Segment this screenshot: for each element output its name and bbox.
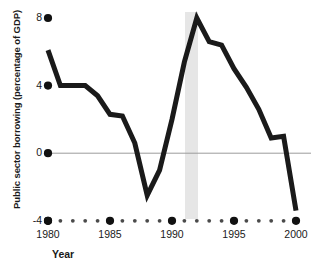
- x-tick-dot-1994: [220, 219, 224, 223]
- x-tick-dot-1982: [71, 219, 75, 223]
- y-tick-dot-4: [44, 82, 52, 90]
- x-axis-title: Year: [52, 248, 74, 260]
- y-tick-dot-0: [44, 149, 52, 157]
- chart-container: Public sector borrowing (percentage of G…: [0, 0, 319, 272]
- x-tick-dot-1990: [168, 217, 176, 225]
- x-tick-dot-1985: [106, 217, 114, 225]
- data-series-line: [48, 18, 296, 211]
- x-tick-dot-1988: [145, 219, 149, 223]
- x-tick-dot-1996: [245, 219, 249, 223]
- x-tick-dot-1986: [121, 219, 125, 223]
- y-axis-tick-dots: [44, 14, 52, 225]
- x-tick-dot-1991: [183, 219, 187, 223]
- x-tick-dot-2000: [292, 217, 300, 225]
- x-tick-dot-1984: [96, 219, 100, 223]
- x-tick-dot-1993: [207, 219, 211, 223]
- x-tick-dot-1992: [195, 219, 199, 223]
- x-tick-dot-1997: [257, 219, 261, 223]
- x-tick-dot-1980: [44, 217, 52, 225]
- x-tick-dot-1987: [133, 219, 137, 223]
- x-tick-label-2000: 2000: [276, 228, 316, 240]
- y-tick-label-8: 8: [26, 11, 42, 23]
- y-tick-label-4: 4: [26, 79, 42, 91]
- x-tick-dot-1995: [230, 217, 238, 225]
- x-axis-tick-dots: [44, 217, 300, 225]
- x-tick-dot-1998: [269, 219, 273, 223]
- y-tick-label-0: 0: [26, 146, 42, 158]
- x-tick-dot-1981: [59, 219, 63, 223]
- x-tick-dot-1999: [282, 219, 286, 223]
- plot-area: 8 4 0 -4 1980 1985 1990 1995 2000 Year: [0, 0, 319, 272]
- y-tick-dot-8: [44, 14, 52, 22]
- x-tick-label-1985: 1985: [90, 228, 130, 240]
- x-tick-dot-1983: [83, 219, 87, 223]
- x-tick-label-1980: 1980: [28, 228, 68, 240]
- x-tick-dot-1989: [158, 219, 162, 223]
- x-tick-label-1995: 1995: [214, 228, 254, 240]
- x-tick-label-1990: 1990: [152, 228, 192, 240]
- y-tick-label-minus4: -4: [22, 214, 42, 226]
